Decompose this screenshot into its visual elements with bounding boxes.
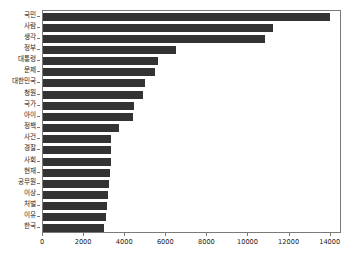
y-axis-tick-label: 처벌 (24, 201, 36, 208)
x-tick-6 (289, 233, 290, 236)
y-axis-tick-label: 대한민국 (12, 78, 36, 85)
x-axis-tick-label: 2000 (75, 238, 92, 246)
y-axis-tick-label: 한국 (24, 223, 36, 230)
y-tick-9 (37, 105, 40, 106)
x-axis-tick-label: 10000 (237, 238, 258, 246)
y-axis-tick-label: 경찰 (24, 145, 36, 152)
y-axis-tick-label: 국가 (24, 101, 36, 108)
y-tick-8 (37, 94, 40, 95)
y-axis-tick-label: 사회 (24, 157, 36, 164)
bar-fill (43, 180, 109, 188)
bar-4 (43, 46, 176, 54)
y-tick-3 (37, 38, 40, 39)
y-tick-20 (37, 227, 40, 228)
bar-13 (43, 146, 111, 154)
y-axis-tick-label: 이상 (24, 190, 36, 197)
bar-6 (43, 68, 155, 76)
y-axis-tick-label: 생각 (24, 34, 36, 41)
x-tick-0 (42, 233, 43, 236)
y-tick-12 (37, 138, 40, 139)
y-tick-4 (37, 49, 40, 50)
bar-fill (43, 46, 176, 54)
bar-20 (43, 224, 104, 232)
y-tick-2 (37, 27, 40, 28)
bar-18 (43, 202, 107, 210)
y-tick-7 (37, 82, 40, 83)
bar-fill (43, 124, 119, 132)
bar-14 (43, 158, 111, 166)
x-tick-2 (124, 233, 125, 236)
x-tick-4 (206, 233, 207, 236)
bar-fill (43, 135, 111, 143)
y-tick-5 (37, 60, 40, 61)
y-axis-tick-label: 청원 (24, 90, 36, 97)
y-axis-tick-label: 정부 (24, 45, 36, 52)
x-axis-tick-label: 8000 (198, 238, 215, 246)
bar-fill (43, 213, 106, 221)
y-tick-11 (37, 127, 40, 128)
bar-9 (43, 102, 134, 110)
bar-fill (43, 191, 108, 199)
y-tick-15 (37, 172, 40, 173)
y-tick-14 (37, 161, 40, 162)
y-tick-17 (37, 194, 40, 195)
y-axis-tick-label: 이유 (24, 212, 36, 219)
bar-17 (43, 191, 108, 199)
bar-chart: 국민사람생각정부대통령문제대한민국청원국가아이정책사건경찰사회현재공무원이상처벌… (0, 0, 356, 257)
x-axis-tick-label: 0 (40, 238, 44, 246)
bar-7 (43, 79, 145, 87)
y-axis-labels: 국민사람생각정부대통령문제대한민국청원국가아이정책사건경찰사회현재공무원이상처벌… (0, 10, 36, 233)
bar-19 (43, 213, 106, 221)
bar-fill (43, 158, 111, 166)
bar-2 (43, 24, 273, 32)
x-tick-7 (330, 233, 331, 236)
x-axis-tick-label: 12000 (278, 238, 299, 246)
x-axis-tick-label: 4000 (116, 238, 133, 246)
bar-11 (43, 124, 119, 132)
x-axis-tick-label: 14000 (319, 238, 340, 246)
y-axis-tick-label: 문제 (24, 67, 36, 74)
bar-fill (43, 202, 107, 210)
bar-fill (43, 79, 145, 87)
x-tick-1 (83, 233, 84, 236)
y-tick-1 (37, 16, 40, 17)
bar-16 (43, 180, 109, 188)
bar-fill (43, 102, 134, 110)
plot-area (42, 10, 341, 233)
y-axis-tick-label: 국민 (24, 12, 36, 19)
y-tick-18 (37, 205, 40, 206)
y-axis-tick-label: 아이 (24, 112, 36, 119)
y-axis-tick-label: 공무원 (18, 179, 36, 186)
bar-15 (43, 169, 110, 177)
y-tick-13 (37, 149, 40, 150)
y-axis-tick-label: 사건 (24, 134, 36, 141)
bar-fill (43, 13, 330, 21)
bar-fill (43, 57, 158, 65)
bar-fill (43, 113, 133, 121)
y-axis-tick-label: 대통령 (18, 56, 36, 63)
y-tick-19 (37, 216, 40, 217)
bar-fill (43, 35, 265, 43)
bar-8 (43, 91, 143, 99)
bar-5 (43, 57, 158, 65)
x-axis-tick-label: 6000 (157, 238, 174, 246)
y-axis-tick-label: 현재 (24, 168, 36, 175)
x-tick-3 (165, 233, 166, 236)
bar-1 (43, 13, 330, 21)
y-tick-10 (37, 116, 40, 117)
y-tick-16 (37, 183, 40, 184)
bar-fill (43, 224, 104, 232)
x-tick-5 (247, 233, 248, 236)
bar-fill (43, 91, 143, 99)
bar-fill (43, 169, 110, 177)
bar-fill (43, 24, 273, 32)
bar-10 (43, 113, 133, 121)
y-axis-tick-label: 사람 (24, 23, 36, 30)
bar-12 (43, 135, 111, 143)
bar-fill (43, 68, 155, 76)
y-tick-6 (37, 71, 40, 72)
bar-fill (43, 146, 111, 154)
y-axis-tick-label: 정책 (24, 123, 36, 130)
bar-3 (43, 35, 265, 43)
